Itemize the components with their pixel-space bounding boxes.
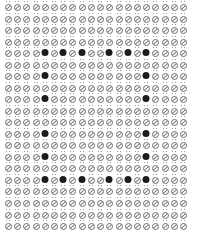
umlaut-marks: [180, 220, 187, 222]
umlaut-marks: [134, 1, 141, 3]
slashed-circle-icon: [22, 105, 30, 115]
umlaut-marks: [116, 116, 123, 118]
umlaut-marks: [79, 220, 86, 222]
umlaut-marks: [60, 1, 67, 3]
circle-glyph: [171, 188, 178, 195]
circle-glyph: [116, 119, 123, 126]
umlaut-marks: [171, 116, 178, 118]
slashed-circle-icon: [32, 209, 40, 219]
slashed-circle-icon: [124, 209, 132, 219]
slashed-circle-icon: [170, 105, 178, 115]
slashed-circle-icon: [96, 197, 104, 207]
umlaut-marks: [88, 1, 95, 3]
slashed-circle-icon: [151, 139, 159, 149]
circle-glyph: [5, 154, 12, 161]
umlaut-marks: [5, 220, 12, 222]
umlaut-marks: [143, 220, 150, 222]
umlaut-marks: [152, 116, 159, 118]
umlaut-marks: [125, 59, 132, 61]
circle-glyph: [97, 108, 104, 115]
slashed-circle-icon: [13, 139, 21, 149]
circle-glyph: [14, 188, 21, 195]
circle-glyph: [106, 165, 113, 172]
slashed-circle-icon: [115, 13, 123, 23]
circle-glyph: [134, 188, 141, 195]
slashed-circle-icon: [133, 70, 141, 80]
slashed-circle-icon: [50, 209, 58, 219]
slashed-circle-icon: [59, 1, 67, 11]
circle-glyph: [69, 108, 76, 115]
slashed-circle-icon: [13, 116, 21, 126]
circle-glyph: [88, 27, 95, 34]
slashed-circle-icon: [22, 151, 30, 161]
circle-glyph: [180, 96, 187, 103]
filled-dot: [78, 49, 85, 56]
umlaut-marks: [125, 1, 132, 3]
slashed-circle-icon: [41, 162, 49, 172]
slashed-circle-icon: [133, 128, 141, 138]
slashed-circle-icon: [22, 174, 30, 184]
slashed-circle-icon: [87, 13, 95, 23]
umlaut-marks: [69, 151, 76, 153]
slashed-circle-icon: [179, 24, 187, 34]
umlaut-marks: [134, 185, 141, 187]
umlaut-marks: [162, 162, 169, 164]
umlaut-marks: [180, 93, 187, 95]
circle-glyph: [97, 131, 104, 138]
slashed-circle-icon: [68, 82, 76, 92]
circle-glyph: [125, 131, 132, 138]
slashed-circle-icon: [133, 36, 141, 46]
slashed-circle-icon: [124, 93, 132, 103]
umlaut-marks: [33, 1, 40, 3]
umlaut-marks: [51, 24, 58, 26]
circle-glyph: [33, 50, 40, 57]
umlaut-marks: [14, 209, 21, 211]
slashed-circle-icon: [105, 128, 113, 138]
slashed-circle-icon: [179, 197, 187, 207]
slashed-circle-icon: [170, 185, 178, 195]
umlaut-marks: [5, 174, 12, 176]
umlaut-marks: [69, 24, 76, 26]
umlaut-marks: [125, 93, 132, 95]
umlaut-marks: [106, 70, 113, 72]
slashed-circle-icon: [105, 59, 113, 69]
umlaut-marks: [180, 139, 187, 141]
slashed-circle-icon: [124, 82, 132, 92]
circle-glyph: [42, 4, 49, 11]
circle-glyph: [5, 223, 12, 230]
circle-glyph: [171, 131, 178, 138]
slashed-circle-icon: [115, 1, 123, 11]
slashed-circle-icon: [22, 59, 30, 69]
slashed-circle-icon: [151, 93, 159, 103]
slashed-circle-icon: [133, 162, 141, 172]
slashed-circle-icon: [133, 220, 141, 230]
umlaut-marks: [79, 185, 86, 187]
umlaut-marks: [152, 185, 159, 187]
slashed-circle-icon: [78, 185, 86, 195]
circle-glyph: [171, 165, 178, 172]
circle-glyph: [143, 4, 150, 11]
slashed-circle-icon: [133, 93, 141, 103]
circle-glyph: [162, 73, 169, 80]
filled-dot: [41, 176, 48, 183]
umlaut-marks: [60, 220, 67, 222]
slashed-circle-icon: [59, 36, 67, 46]
circle-glyph: [88, 16, 95, 23]
umlaut-marks: [134, 59, 141, 61]
umlaut-marks: [88, 47, 95, 49]
circle-glyph: [69, 142, 76, 149]
circle-glyph: [162, 85, 169, 92]
slashed-circle-icon: [179, 59, 187, 69]
slashed-circle-icon: [4, 24, 12, 34]
circle-glyph: [116, 200, 123, 207]
slashed-circle-icon: [4, 128, 12, 138]
slashed-circle-icon: [50, 197, 58, 207]
umlaut-marks: [116, 128, 123, 130]
circle-glyph: [33, 177, 40, 184]
filled-dot: [106, 49, 113, 56]
umlaut-marks: [143, 105, 150, 107]
circle-glyph: [171, 177, 178, 184]
circle-glyph: [106, 131, 113, 138]
slashed-circle-icon: [179, 162, 187, 172]
circle-glyph: [88, 73, 95, 80]
